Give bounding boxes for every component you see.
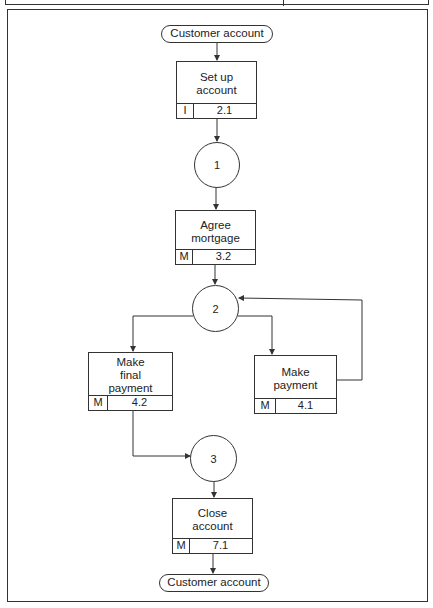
event-kind: M <box>173 539 190 553</box>
event-box-close-account: Close account M 7.1 <box>172 498 253 554</box>
event-footer: M 4.2 <box>89 395 172 410</box>
event-kind: M <box>89 396 108 410</box>
event-footer: M 4.1 <box>255 398 336 413</box>
event-kind: I <box>177 104 194 118</box>
state-circle-3: 3 <box>190 435 237 482</box>
event-label: Agree mortgage <box>176 211 255 252</box>
event-label: Close account <box>173 499 252 541</box>
end-node-customer-account: Customer account <box>159 574 269 592</box>
event-number: 7.1 <box>189 539 252 553</box>
event-box-agree-mortgage: Agree mortgage M 3.2 <box>175 210 256 265</box>
event-number: 4.1 <box>275 399 336 413</box>
event-label: Make payment <box>255 356 336 401</box>
event-box-make-payment: Make payment M 4.1 <box>254 355 337 414</box>
state-label: 3 <box>210 453 216 465</box>
state-circle-1: 1 <box>194 142 240 188</box>
event-kind: M <box>176 250 193 264</box>
event-label: Set up account <box>177 62 256 106</box>
state-circle-2: 2 <box>192 285 239 332</box>
event-box-make-final-payment: Make final payment M 4.2 <box>88 352 173 411</box>
start-node-customer-account: Customer account <box>161 25 273 43</box>
end-node-label: Customer account <box>167 576 260 588</box>
event-footer: M 7.1 <box>173 538 252 553</box>
event-number: 2.1 <box>193 104 256 118</box>
state-label: 2 <box>212 303 218 315</box>
event-number: 4.2 <box>107 396 172 410</box>
event-label: Make final payment <box>89 353 172 398</box>
start-node-label: Customer account <box>170 27 263 39</box>
event-box-set-up-account: Set up account I 2.1 <box>176 61 257 119</box>
event-footer: I 2.1 <box>177 103 256 118</box>
state-label: 1 <box>214 159 220 171</box>
event-number: 3.2 <box>192 250 255 264</box>
event-footer: M 3.2 <box>176 249 255 264</box>
event-kind: M <box>255 399 276 413</box>
